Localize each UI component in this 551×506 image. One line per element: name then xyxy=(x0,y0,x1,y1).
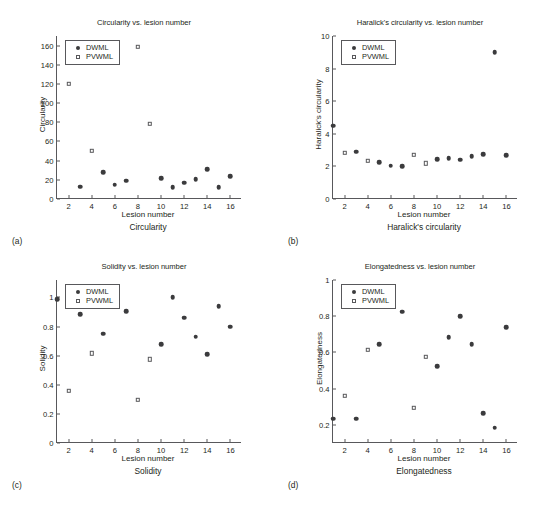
panel-d-xaxis-label: Lesion number xyxy=(332,454,516,463)
panel-a-point-dwml xyxy=(170,185,175,190)
panel-d-point-dwml xyxy=(354,416,359,421)
panel-d-point-dwml xyxy=(377,342,382,347)
panel-a-point-dwml xyxy=(113,182,118,187)
panel-b-ytick-label: 0 xyxy=(325,195,329,204)
filled-circle-icon xyxy=(346,46,362,50)
panel-b-ytick-label: 6 xyxy=(325,97,329,106)
panel-a-ytick-mark xyxy=(57,103,60,104)
panel-b-point-dwml xyxy=(354,149,359,154)
panel-d-xtick-mark xyxy=(460,439,461,442)
panel-d-letter: (d) xyxy=(288,480,298,490)
panel-c-xtick-mark xyxy=(91,439,92,442)
panel-b-yaxis-label: Haralick's circularity xyxy=(314,69,323,161)
panel-c-ytick-mark xyxy=(57,326,60,327)
panel-c-point-dwml xyxy=(55,297,60,302)
panel-b-point-dwml xyxy=(493,50,498,55)
panel-d-ytick-mark xyxy=(333,352,336,353)
panel-b-xaxis-label: Lesion number xyxy=(332,210,516,219)
panel-c-point-dwml xyxy=(217,304,222,309)
legend-marker xyxy=(76,299,80,303)
panel-c-ytick-mark xyxy=(57,355,60,356)
panel-c-xtick-mark xyxy=(68,439,69,442)
panel-c-xtick-mark xyxy=(207,439,208,442)
panel-b-point-dwml xyxy=(389,163,394,168)
panel-d-point-dwml xyxy=(446,335,451,340)
panel-b-letter: (b) xyxy=(288,236,298,246)
panel-c-caption: Solidity xyxy=(56,466,240,476)
panel-a-xtick-mark xyxy=(161,195,162,198)
panel-b-ytick-mark xyxy=(333,68,336,69)
open-square-icon xyxy=(346,55,362,59)
panel-a-legend: DWMLPVWML xyxy=(65,40,120,65)
legend-label: PVWML xyxy=(362,296,389,306)
panel-a: Circularity vs. lesion number 0204060801… xyxy=(24,18,264,240)
open-square-icon xyxy=(346,299,362,303)
panel-a-caption: Circularity xyxy=(56,222,240,232)
panel-b-caption: Haralick's circularity xyxy=(332,222,516,232)
panel-d-ytick-mark xyxy=(333,424,336,425)
panel-d-point-dwml xyxy=(481,411,486,416)
panel-b-ytick-label: 10 xyxy=(321,32,329,41)
panel-a-xtick-mark xyxy=(137,195,138,198)
panel-d-legend: DWMLPVWML xyxy=(341,284,396,309)
panel-c: Solidity vs. lesion number 00.20.40.60.8… xyxy=(24,262,264,492)
panel-b-xtick-mark xyxy=(483,195,484,198)
panel-d-ytick-mark xyxy=(333,316,336,317)
panel-a-point-dwml xyxy=(205,167,210,172)
legend-entry-pvwml: PVWML xyxy=(70,297,113,306)
legend-marker xyxy=(76,46,80,50)
panel-a-ytick-label: 20 xyxy=(45,175,53,184)
panel-d-point-dwml xyxy=(400,309,405,314)
panel-a-ytick-label: 160 xyxy=(41,41,54,50)
panel-c-point-pvwml xyxy=(66,388,70,392)
panel-a-yaxis-label: Circularity xyxy=(38,75,47,155)
panel-c-ytick-mark xyxy=(57,413,60,414)
panel-d: Elongatedness vs. lesion number 0.20.40.… xyxy=(300,262,540,492)
panel-a-ytick-label: 40 xyxy=(45,156,53,165)
panel-b-point-dwml xyxy=(446,156,451,161)
panel-a-point-dwml xyxy=(101,170,106,175)
panel-c-point-dwml xyxy=(182,316,187,321)
panel-a-ytick-mark xyxy=(57,45,60,46)
panel-a-point-dwml xyxy=(124,178,129,183)
panel-b-point-dwml xyxy=(435,157,440,162)
panel-b-ytick-mark xyxy=(333,36,336,37)
panel-a-point-pvwml xyxy=(136,44,140,48)
filled-circle-icon xyxy=(70,290,86,294)
panel-c-point-dwml xyxy=(205,352,210,357)
panel-d-point-dwml xyxy=(458,314,463,319)
panel-b-xtick-mark xyxy=(437,195,438,198)
panel-b-point-dwml xyxy=(377,160,382,165)
panel-c-point-dwml xyxy=(101,332,106,337)
panel-c-point-dwml xyxy=(228,324,233,329)
legend-marker xyxy=(352,290,356,294)
legend-entry-pvwml: PVWML xyxy=(346,53,389,62)
panel-b-point-pvwml xyxy=(365,158,369,162)
filled-circle-icon xyxy=(70,46,86,50)
panel-a-ytick-mark xyxy=(57,122,60,123)
panel-b-xtick-mark xyxy=(413,195,414,198)
panel-c-ytick-mark xyxy=(57,443,60,444)
panel-a-point-dwml xyxy=(217,185,222,190)
panel-d-point-pvwml xyxy=(342,394,346,398)
panel-a-point-dwml xyxy=(182,180,187,185)
panel-b-xtick-mark xyxy=(506,195,507,198)
panel-a-letter: (a) xyxy=(12,236,22,246)
panel-c-letter: (c) xyxy=(12,480,22,490)
panel-d-point-dwml xyxy=(504,325,509,330)
panel-b-point-dwml xyxy=(331,123,336,128)
panel-c-plot-area: 00.20.40.60.81246810121416DWMLPVWML xyxy=(56,280,241,443)
legend-label: PVWML xyxy=(86,296,113,306)
legend-marker xyxy=(352,55,356,59)
panel-b-point-dwml xyxy=(400,164,405,169)
panel-b-xtick-mark xyxy=(390,195,391,198)
panel-a-ytick-mark xyxy=(57,199,60,200)
panel-c-xtick-mark xyxy=(184,439,185,442)
panel-b-legend: DWMLPVWML xyxy=(341,40,396,65)
panel-a-point-pvwml xyxy=(66,82,70,86)
panel-d-ytick-mark xyxy=(333,388,336,389)
panel-a-ytick-label: 140 xyxy=(41,60,54,69)
panel-a-point-dwml xyxy=(159,176,164,181)
panel-b-point-dwml xyxy=(504,153,509,158)
panel-a-ytick-mark xyxy=(57,83,60,84)
